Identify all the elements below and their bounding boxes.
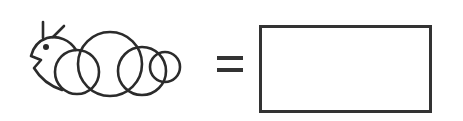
caterpillar-head (31, 37, 76, 90)
body-segment-1 (55, 50, 99, 94)
body-segment-2 (78, 32, 142, 96)
eye-icon (43, 44, 49, 50)
antenna-right (53, 26, 64, 37)
answer-box[interactable] (259, 25, 432, 113)
equals-sign-top-bar (217, 56, 243, 60)
equals-sign-bottom-bar (217, 68, 243, 72)
answer-value (262, 28, 429, 110)
